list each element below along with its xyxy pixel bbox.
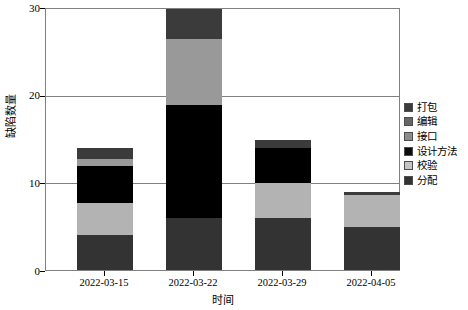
- y-tick-label-10: 10: [14, 178, 40, 188]
- bar-segment-校验[interactable]: [77, 203, 133, 235]
- legend-item[interactable]: 分配: [404, 173, 468, 188]
- bar-2022-04-05[interactable]: [344, 192, 400, 270]
- y-tick-label-30: 30: [14, 3, 40, 13]
- bar-segment-分配[interactable]: [166, 218, 222, 270]
- legend-swatch-icon: [404, 176, 413, 185]
- bar-segment-打包[interactable]: [255, 140, 311, 149]
- bar-segment-校验[interactable]: [344, 195, 400, 226]
- bar-segment-分配[interactable]: [77, 235, 133, 270]
- bar-segment-设计方法[interactable]: [255, 148, 311, 183]
- x-tick-mark-3: [371, 271, 372, 276]
- plot-area: [45, 8, 400, 271]
- bar-segment-打包[interactable]: [166, 9, 222, 39]
- bar-segment-设计方法[interactable]: [166, 105, 222, 218]
- legend-swatch-icon: [404, 161, 413, 170]
- bar-segment-分配[interactable]: [344, 227, 400, 271]
- legend-item-label: 打包: [417, 102, 437, 113]
- stacked-bar-chart: 缺陷数量 30 20 10 0 2022-03-15 2022-03-22 20…: [0, 0, 468, 310]
- legend-item[interactable]: 校验: [404, 158, 468, 173]
- legend-item-label: 分配: [417, 175, 437, 186]
- bar-segment-打包[interactable]: [77, 148, 133, 158]
- y-tick-label-0: 0: [14, 266, 40, 276]
- y-tick-label-20: 20: [14, 90, 40, 100]
- bar-segment-分配[interactable]: [255, 218, 311, 270]
- bar-2022-03-29[interactable]: [255, 140, 311, 271]
- bars-layer: [46, 9, 399, 270]
- chart-legend: 打包编辑接口设计方法校验分配: [404, 100, 468, 188]
- x-tick-mark-2: [282, 271, 283, 276]
- bar-segment-接口[interactable]: [77, 159, 133, 166]
- y-tick-mark-0: [40, 271, 45, 272]
- bar-segment-校验[interactable]: [255, 183, 311, 218]
- legend-swatch-icon: [404, 132, 413, 141]
- legend-item-label: 编辑: [417, 116, 437, 127]
- legend-swatch-icon: [404, 117, 413, 126]
- legend-swatch-icon: [404, 103, 413, 112]
- legend-item-label: 设计方法: [417, 146, 457, 157]
- legend-item[interactable]: 编辑: [404, 115, 468, 130]
- bar-segment-接口[interactable]: [166, 39, 222, 104]
- x-tick-mark-1: [193, 271, 194, 276]
- legend-item[interactable]: 设计方法: [404, 144, 468, 159]
- legend-item-label: 校验: [417, 160, 437, 171]
- x-tick-label-3: 2022-04-05: [316, 277, 426, 288]
- legend-item[interactable]: 接口: [404, 129, 468, 144]
- bar-2022-03-15[interactable]: [77, 148, 133, 270]
- x-tick-mark-0: [104, 271, 105, 276]
- bar-2022-03-22[interactable]: [166, 9, 222, 270]
- legend-item[interactable]: 打包: [404, 100, 468, 115]
- legend-swatch-icon: [404, 147, 413, 156]
- bar-segment-打包[interactable]: [344, 192, 400, 195]
- x-axis-title: 时间: [45, 291, 400, 307]
- y-axis: 30 20 10 0: [14, 0, 40, 310]
- bar-segment-设计方法[interactable]: [77, 166, 133, 203]
- legend-item-label: 接口: [417, 131, 437, 142]
